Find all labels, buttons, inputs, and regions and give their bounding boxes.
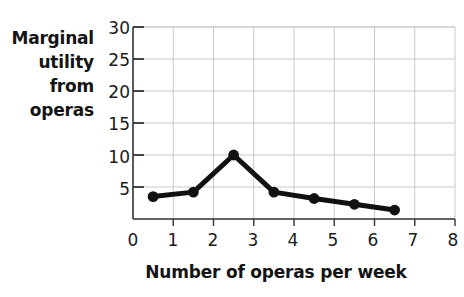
data-point-6 <box>389 205 400 216</box>
gridlines <box>133 27 455 219</box>
data-point-4 <box>309 193 320 204</box>
data-point-0 <box>148 191 159 202</box>
data-series <box>148 150 400 216</box>
data-point-3 <box>268 187 279 198</box>
data-point-5 <box>349 199 360 210</box>
plot-area <box>0 0 464 297</box>
data-point-1 <box>188 187 199 198</box>
chart-figure: Marginal utility from operas 30 25 20 15… <box>0 0 464 297</box>
data-point-2 <box>228 150 239 161</box>
